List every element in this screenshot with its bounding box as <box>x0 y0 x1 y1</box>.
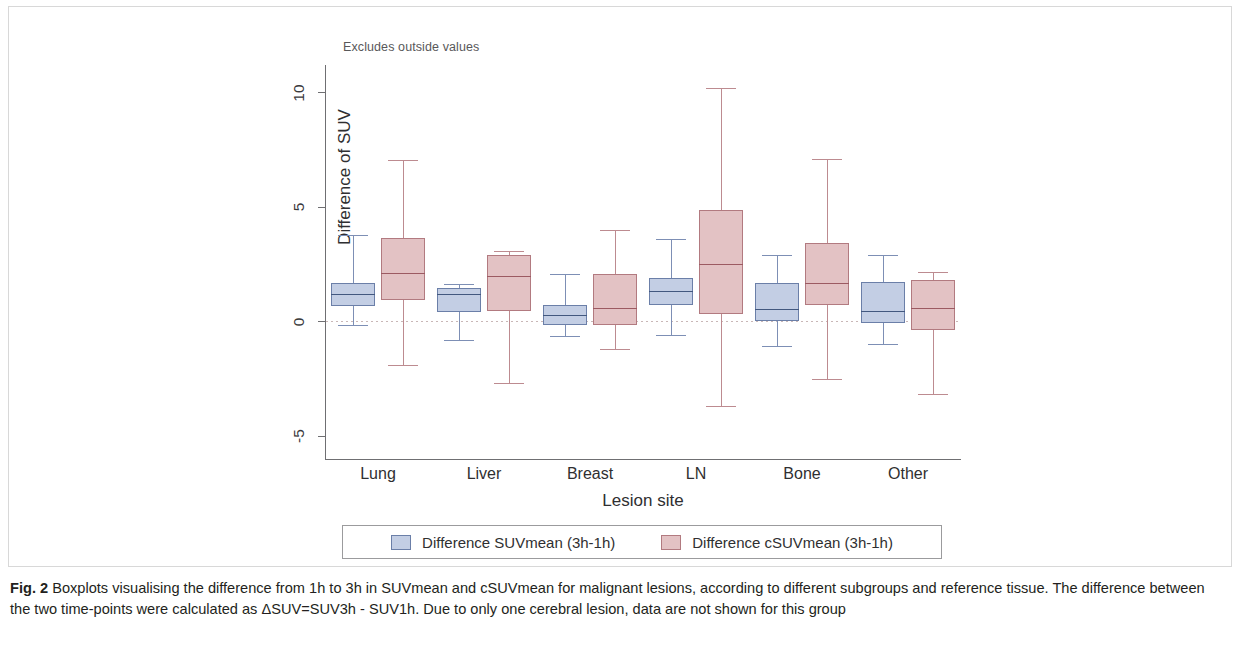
boxplot-box <box>437 288 481 312</box>
boxplot-whisker-lower <box>615 325 616 349</box>
y-axis-tick-label-wrap: -5 <box>285 436 313 437</box>
x-axis-tick-label: LN <box>686 465 706 483</box>
boxplot-cap-upper <box>444 284 474 285</box>
boxplot-median-line <box>649 291 693 292</box>
boxplot-whisker-upper <box>565 274 566 305</box>
legend-item: Difference SUVmean (3h-1h) <box>391 534 615 551</box>
boxplot-whisker-upper <box>721 88 722 210</box>
boxplot-cap-upper <box>918 272 948 273</box>
boxplot-whisker-lower <box>671 305 672 335</box>
chart-legend: Difference SUVmean (3h-1h) Difference cS… <box>342 525 942 559</box>
boxplot-cap-lower <box>868 344 898 345</box>
boxplot-cap-upper <box>656 239 686 240</box>
boxplot-whisker-upper <box>615 230 616 274</box>
boxplot-whisker-lower <box>459 312 460 340</box>
x-axis-tick-label: Lung <box>360 465 396 483</box>
boxplot-cap-upper <box>550 274 580 275</box>
figure-caption: Fig. 2 Boxplots visualising the differen… <box>10 578 1228 619</box>
boxplot-cap-upper <box>762 255 792 256</box>
boxplot-cap-lower <box>706 406 736 407</box>
boxplot-whisker-lower <box>403 300 404 365</box>
y-axis-tick <box>318 436 325 437</box>
boxplot-whisker-lower <box>883 323 884 344</box>
boxplot-whisker-lower <box>827 305 828 379</box>
y-axis-tick <box>318 321 325 322</box>
boxplot-median-line <box>755 309 799 310</box>
legend-swatch-icon <box>391 535 411 550</box>
y-axis-tick-label-wrap: 5 <box>285 207 313 208</box>
boxplot-box <box>805 243 849 305</box>
boxplot-median-line <box>381 273 425 274</box>
boxplot-median-line <box>437 294 481 295</box>
x-axis-tick-label: Liver <box>467 465 502 483</box>
boxplot-chart: Excludes outside values 1050-5 Differenc… <box>9 7 1231 566</box>
boxplot-cap-lower <box>494 383 524 384</box>
boxplot-median-line <box>543 315 587 316</box>
boxplot-median-line <box>861 311 905 312</box>
boxplot-cap-upper <box>868 255 898 256</box>
boxplot-box <box>381 238 425 300</box>
boxplot-whisker-lower <box>777 321 778 346</box>
y-axis-tick <box>318 207 325 208</box>
boxplot-box <box>699 210 743 314</box>
boxplot-whisker-lower <box>721 314 722 406</box>
boxplot-cap-upper <box>494 251 524 252</box>
boxplot-median-line <box>911 308 955 309</box>
legend-swatch-icon <box>661 535 681 550</box>
legend-item: Difference cSUVmean (3h-1h) <box>661 534 893 551</box>
legend-label: Difference cSUVmean (3h-1h) <box>692 534 893 551</box>
boxplot-cap-lower <box>918 394 948 395</box>
boxplot-cap-upper <box>388 160 418 161</box>
y-axis-tick-label-wrap: 10 <box>285 92 313 93</box>
boxplot-box <box>755 283 799 321</box>
y-axis-line <box>325 65 326 460</box>
boxplot-cap-lower <box>338 325 368 326</box>
boxplot-whisker-upper <box>933 272 934 280</box>
boxplot-box <box>861 282 905 323</box>
x-axis-line <box>325 459 961 460</box>
boxplot-cap-lower <box>388 365 418 366</box>
y-axis-title: Difference of SUV <box>335 77 355 277</box>
y-axis-tick-label-wrap: 0 <box>285 321 313 322</box>
boxplot-median-line <box>331 294 375 295</box>
boxplot-median-line <box>487 276 531 277</box>
x-axis-tick-label: Breast <box>567 465 613 483</box>
boxplot-whisker-lower <box>933 330 934 394</box>
boxplot-cap-lower <box>656 335 686 336</box>
y-axis-tick-label: 0 <box>290 317 308 326</box>
x-axis-tick-label: Other <box>888 465 928 483</box>
figure-panel: Excludes outside values 1050-5 Differenc… <box>8 6 1232 567</box>
boxplot-cap-upper <box>600 230 630 231</box>
boxplot-cap-lower <box>762 346 792 347</box>
boxplot-cap-lower <box>600 349 630 350</box>
figure-screenshot: Excludes outside values 1050-5 Differenc… <box>0 0 1240 672</box>
boxplot-cap-upper <box>706 88 736 89</box>
boxplot-box <box>593 274 637 325</box>
boxplot-whisker-upper <box>827 159 828 243</box>
boxplot-whisker-upper <box>777 255 778 283</box>
boxplot-cap-lower <box>444 340 474 341</box>
y-axis-tick-label: 5 <box>290 203 308 212</box>
y-axis-tick-label: 10 <box>290 84 308 101</box>
boxplot-box <box>911 280 955 330</box>
boxplot-cap-upper <box>812 159 842 160</box>
boxplot-cap-lower <box>812 379 842 380</box>
boxplot-median-line <box>699 264 743 265</box>
y-axis-tick-label: -5 <box>290 429 308 443</box>
y-axis-tick <box>318 92 325 93</box>
boxplot-whisker-upper <box>353 235 354 283</box>
boxplot-whisker-lower <box>509 311 510 383</box>
boxplot-whisker-lower <box>353 306 354 325</box>
boxplot-median-line <box>593 308 637 309</box>
boxplot-cap-lower <box>550 336 580 337</box>
boxplot-whisker-upper <box>403 160 404 238</box>
x-axis-title: Lesion site <box>325 491 961 511</box>
chart-subtitle: Excludes outside values <box>343 40 479 54</box>
boxplot-whisker-upper <box>671 239 672 278</box>
boxplot-whisker-upper <box>883 255 884 282</box>
boxplot-whisker-lower <box>565 325 566 336</box>
boxplot-box <box>487 255 531 311</box>
x-axis-tick-label: Bone <box>783 465 820 483</box>
boxplot-median-line <box>805 283 849 284</box>
figure-caption-label: Fig. 2 <box>10 580 48 596</box>
